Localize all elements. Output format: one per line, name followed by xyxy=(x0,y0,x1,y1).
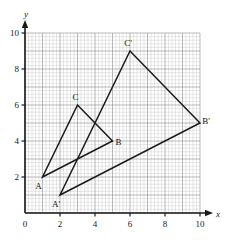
y-tick-label-2: 2 xyxy=(15,172,20,182)
major-gridlines xyxy=(25,33,200,213)
x-tick-label-6: 6 xyxy=(128,219,133,229)
axes xyxy=(22,20,213,216)
y-tick-label-10: 10 xyxy=(10,28,20,38)
x-tick-label-2: 2 xyxy=(58,219,63,229)
y-tick-label-8: 8 xyxy=(15,64,20,74)
x-tick-label-10: 10 xyxy=(196,219,206,229)
y-tick-label-4: 4 xyxy=(15,136,20,146)
y-tick-label-6: 6 xyxy=(15,100,20,110)
vertex-label-C-prime: C' xyxy=(124,38,132,48)
vertex-label-B-prime: B' xyxy=(202,116,210,126)
vertex-label-C: C xyxy=(72,92,78,102)
vertex-labels: ABCA'B'C' xyxy=(35,38,210,209)
graph-figure: 0246810246810 ABCA'B'C' xy xyxy=(0,0,230,240)
x-tick-label-8: 8 xyxy=(163,219,168,229)
y-axis-title: y xyxy=(23,9,28,19)
vertex-label-A-prime: A' xyxy=(52,199,60,209)
x-tick-label-0: 0 xyxy=(23,219,28,229)
axis-ticks xyxy=(22,33,201,217)
x-axis-title: x xyxy=(215,209,220,219)
coordinate-plane: 0246810246810 ABCA'B'C' xy xyxy=(0,0,230,240)
vertex-label-A: A xyxy=(35,181,42,191)
x-tick-label-4: 4 xyxy=(93,219,98,229)
vertex-label-B: B xyxy=(115,137,121,147)
